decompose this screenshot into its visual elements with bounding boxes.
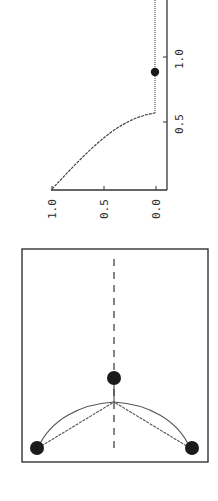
y-tick-label-05: 0.5 bbox=[98, 199, 111, 219]
marker-dot bbox=[151, 68, 159, 76]
right-node bbox=[185, 441, 199, 455]
three-body-diagram bbox=[22, 249, 208, 462]
left-straight bbox=[38, 402, 114, 448]
line-chart: 1.0 0.5 0.0 0.5 1.0 bbox=[46, 0, 186, 219]
x-tick-label-05: 0.5 bbox=[173, 114, 186, 134]
figure: 1.0 0.5 0.0 0.5 1.0 bbox=[0, 0, 218, 501]
curve-series bbox=[52, 113, 155, 189]
x-tick-label-1: 1.0 bbox=[173, 49, 186, 69]
y-tick-label-0: 0.0 bbox=[150, 199, 163, 219]
left-node bbox=[30, 441, 44, 455]
top-node bbox=[107, 371, 121, 385]
right-straight bbox=[114, 402, 190, 448]
y-tick-label-1: 1.0 bbox=[46, 199, 59, 219]
